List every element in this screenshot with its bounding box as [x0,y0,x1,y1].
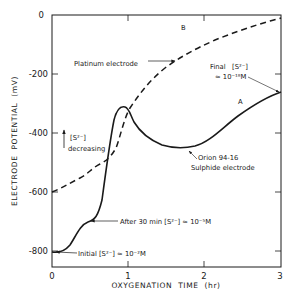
y-tick-0: 0 [39,10,44,20]
final-arrow [248,77,279,92]
chart-canvas: 0 -200 -400 -600 -800 0 1 2 3 OXYGENATIO… [0,0,293,297]
y-tick-minus800: -800 [29,246,48,256]
initial-arrow [56,252,77,253]
y-axis-title: ELECTRODE POTENTIAL (mV) [10,76,19,206]
x-tick-labels: 0 1 2 3 [49,271,282,281]
after-30min-label: After 30 min [S²⁻] ≈ 10⁻⁵M [120,218,211,226]
svg-text:≈ 10⁻¹⁸M: ≈ 10⁻¹⁸M [215,73,247,81]
svg-text:[S²⁻]: [S²⁻] [232,63,248,71]
orion-label-line2: Sulphide electrode [191,164,255,172]
x-tick-2: 2 [201,271,206,281]
x-axis-ticks [128,15,204,267]
x-tick-3: 3 [277,271,282,281]
y-tick-minus600: -600 [29,187,48,197]
y-tick-minus200: -200 [29,69,48,79]
orion-arrow [189,151,197,159]
y-tick-labels: 0 -200 -400 -600 -800 [29,10,48,256]
initial-label: Initial [S²⁻] ≈ 10⁻²M [78,250,146,258]
orion-label-line1: Orion 94-16 [198,154,238,162]
x-tick-1: 1 [125,271,130,281]
decreasing-label-line2: decreasing [68,145,105,153]
x-tick-0: 0 [49,271,54,281]
decreasing-label-line1: [S²⁻] [70,134,86,142]
x-axis-title: OXYGENATION TIME (hr) [111,281,220,290]
svg-text:Final: Final [210,63,226,71]
series-a-sulphide-line [52,92,281,252]
series-b-label: B [181,24,186,32]
platinum-electrode-annotation: Platinum electrode [74,60,138,68]
final-concentration-annotation: Final [S²⁻] ≈ 10⁻¹⁸M [210,63,248,81]
plot-frame [52,15,281,267]
y-tick-minus400: -400 [29,128,48,138]
series-a-label: A [238,98,243,106]
